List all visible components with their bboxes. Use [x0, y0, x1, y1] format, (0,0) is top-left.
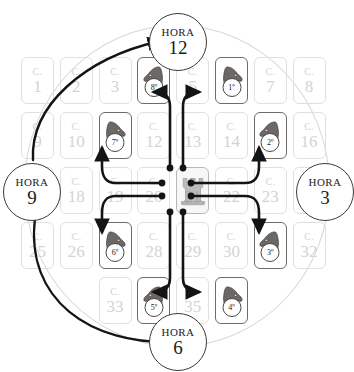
cell-1[interactable]: C.1 — [21, 57, 54, 104]
cell-prefix: C. — [265, 67, 275, 77]
cell-number: 28 — [145, 243, 162, 260]
cell-prefix: C. — [149, 177, 159, 187]
cell-number: 10 — [68, 133, 85, 150]
cell-number: 20 — [145, 188, 162, 205]
rook-icon — [178, 174, 208, 208]
cell-prefix: C. — [110, 67, 120, 77]
cell-32[interactable]: C.32 — [293, 222, 326, 269]
hora-bubble-6[interactable]: HORA 6 — [149, 313, 207, 371]
cell-7[interactable]: C.7 — [254, 57, 287, 104]
cell-number: 19 — [107, 188, 124, 205]
cell-prefix: C. — [304, 232, 314, 242]
cell-2[interactable]: C.2 — [60, 57, 93, 104]
cell-27-knight[interactable]: 6º — [99, 222, 132, 269]
cell-6-knight[interactable]: 1º — [215, 57, 248, 104]
cell-prefix: C. — [304, 122, 314, 132]
cell-prefix: C. — [110, 287, 120, 297]
cell-10[interactable]: C.10 — [60, 112, 93, 159]
cell-number: 7 — [266, 78, 275, 95]
hora-bubble-12[interactable]: HORA 12 — [149, 13, 207, 71]
hora-bubble-9[interactable]: HORA 9 — [3, 163, 61, 221]
cell-29[interactable]: C.29 — [176, 222, 209, 269]
cell-prefix: C. — [227, 232, 237, 242]
knight-order-badge: 5º — [144, 298, 163, 317]
hora-value: 6 — [173, 337, 183, 359]
knight-order-badge: 7º — [106, 133, 125, 152]
cell-prefix: C. — [149, 232, 159, 242]
cell-14[interactable]: C.14 — [215, 112, 248, 159]
cell-25[interactable]: C.25 — [21, 222, 54, 269]
cell-33[interactable]: C.33 — [99, 277, 132, 324]
cell-19[interactable]: C.19 — [99, 167, 132, 214]
cell-11-knight[interactable]: 7º — [99, 112, 132, 159]
cell-28[interactable]: C.28 — [137, 222, 170, 269]
cell-12[interactable]: C.12 — [137, 112, 170, 159]
cell-prefix: C. — [71, 232, 81, 242]
cell-31-knight[interactable]: 3º — [254, 222, 287, 269]
hora-bubble-3[interactable]: HORA 3 — [296, 163, 354, 221]
cell-prefix: C. — [149, 122, 159, 132]
knight-order-badge: 6º — [106, 243, 125, 262]
cell-8[interactable]: C.8 — [293, 57, 326, 104]
cell-prefix: C. — [188, 122, 198, 132]
cell-16[interactable]: C.16 — [293, 112, 326, 159]
cell-number: 5 — [188, 78, 197, 95]
cell-number: 26 — [68, 243, 85, 260]
hora-value: 12 — [169, 37, 188, 59]
cell-15-knight[interactable]: 2º — [254, 112, 287, 159]
knight-order-badge: 1º — [222, 78, 241, 97]
cell-20[interactable]: C.20 — [137, 167, 170, 214]
hora-value: 3 — [320, 187, 330, 209]
cell-23[interactable]: C.23 — [254, 167, 287, 214]
cell-prefix: C. — [188, 232, 198, 242]
cell-18[interactable]: C.18 — [60, 167, 93, 214]
cell-number: 13 — [184, 133, 201, 150]
cell-number: 14 — [223, 133, 240, 150]
cell-13[interactable]: C.13 — [176, 112, 209, 159]
cell-number: 29 — [184, 243, 201, 260]
cell-prefix: C. — [71, 67, 81, 77]
cell-prefix: C. — [227, 122, 237, 132]
cell-21-center[interactable]: C.21 — [176, 167, 209, 214]
cell-grid: C.1C.2C.38ºC.51ºC.7C.8C.9C.107ºC.12C.13C… — [21, 57, 331, 333]
cell-prefix: C. — [33, 67, 43, 77]
knight-order-badge: 8º — [144, 78, 163, 97]
knight-order-badge: 3º — [261, 243, 280, 262]
cell-22[interactable]: C.22 — [215, 167, 248, 214]
cell-number: 23 — [262, 188, 279, 205]
hora-value: 9 — [27, 187, 37, 209]
cell-9[interactable]: C.9 — [21, 112, 54, 159]
cell-prefix: C. — [304, 67, 314, 77]
cell-36-knight[interactable]: 4º — [215, 277, 248, 324]
cell-number: 32 — [301, 243, 318, 260]
cell-3[interactable]: C.3 — [99, 57, 132, 104]
cell-number: 8 — [305, 78, 314, 95]
cell-number: 35 — [184, 298, 201, 315]
cell-prefix: C. — [110, 177, 120, 187]
cell-number: 9 — [33, 133, 42, 150]
cell-prefix: C. — [33, 232, 43, 242]
cell-number: 25 — [29, 243, 46, 260]
cell-prefix: C. — [227, 177, 237, 187]
cell-prefix: C. — [33, 122, 43, 132]
cell-number: 3 — [111, 78, 120, 95]
cell-number: 18 — [68, 188, 85, 205]
cell-prefix: C. — [71, 177, 81, 187]
cell-prefix: C. — [188, 287, 198, 297]
cell-number: 33 — [107, 298, 124, 315]
cell-number: 22 — [223, 188, 240, 205]
cell-number: 16 — [301, 133, 318, 150]
cell-number: 30 — [223, 243, 240, 260]
cell-number: 2 — [72, 78, 81, 95]
cell-prefix: C. — [265, 177, 275, 187]
cell-number: 1 — [33, 78, 42, 95]
cell-26[interactable]: C.26 — [60, 222, 93, 269]
knight-order-badge: 2º — [261, 133, 280, 152]
cell-number: 12 — [145, 133, 162, 150]
knight-order-badge: 4º — [222, 298, 241, 317]
cell-prefix: C. — [71, 122, 81, 132]
cell-30[interactable]: C.30 — [215, 222, 248, 269]
